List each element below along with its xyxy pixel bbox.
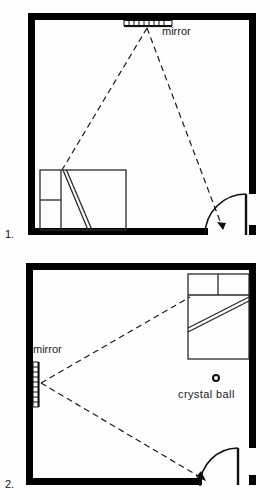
panel-number-1: 1. (5, 228, 14, 240)
floorplan-panel-1: 1. mirror (0, 0, 270, 250)
bed-symbol-2 (188, 274, 249, 359)
bed-symbol-1 (40, 170, 126, 230)
mirror-label-1: mirror (162, 25, 191, 37)
floorplan-drawing-1 (0, 0, 270, 250)
floorplan-drawing-2 (0, 250, 270, 500)
floorplan-panel-2: 2. mirror crystal ball (0, 250, 270, 500)
figure-page: 1. mirror (0, 0, 270, 500)
sightlines-1 (62, 28, 223, 229)
sightline-arrowhead-1 (217, 222, 226, 230)
panel-number-2: 2. (5, 478, 14, 490)
mirror-symbol-2 (33, 362, 40, 407)
door-symbol-2 (200, 448, 238, 486)
mirror-label-2: mirror (33, 343, 62, 355)
door-symbol-1 (205, 194, 246, 235)
crystal-ball-icon (213, 375, 219, 381)
crystal-ball-label: crystal ball (178, 388, 235, 400)
